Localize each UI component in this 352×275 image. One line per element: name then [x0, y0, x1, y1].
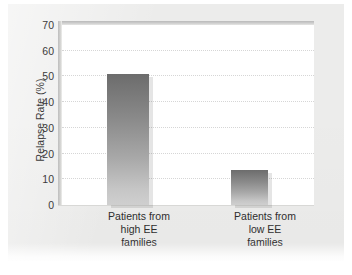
chart-figure: 010203040506070 Relapse Rate (%) Patient…	[0, 0, 352, 275]
bar-series	[62, 25, 314, 205]
y-axis-title: Relapse Rate (%)	[34, 60, 46, 180]
bar-1[interactable]	[231, 170, 268, 205]
x-tick-label-line: Patients from	[74, 210, 204, 223]
x-tick-label-line: high EE	[74, 223, 204, 236]
x-axis-baseline	[58, 205, 314, 206]
card-bottom-fade	[8, 243, 344, 261]
x-tick-label-line: Patients from	[200, 210, 330, 223]
bar-0[interactable]	[107, 74, 149, 205]
x-tick-label-line: low EE	[200, 223, 330, 236]
y-axis-title-wrapper: Relapse Rate (%)	[22, 20, 36, 206]
